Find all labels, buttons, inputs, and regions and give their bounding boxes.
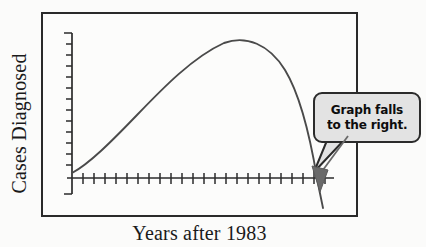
data-curve	[72, 40, 323, 208]
callout-line-1: Graph falls	[331, 103, 403, 117]
x-axis-label: Years after 1983	[41, 219, 358, 247]
figure-container: Cases Diagnosed	[0, 0, 426, 247]
y-axis-ticks	[64, 33, 72, 194]
pointer-arrow	[290, 130, 370, 202]
y-axis-label: Cases Diagnosed	[0, 0, 38, 247]
